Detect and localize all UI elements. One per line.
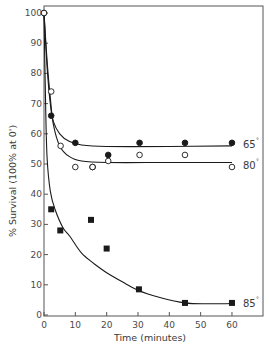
marker-open-circle	[90, 164, 96, 170]
marker-filled-circle	[105, 152, 111, 158]
marker-filled-square	[182, 300, 188, 306]
marker-filled-circle	[182, 140, 188, 146]
y-tick-label: 30	[31, 219, 43, 229]
plot-border	[44, 6, 263, 316]
marker-filled-square	[48, 206, 54, 212]
fit-curves	[44, 13, 232, 304]
y-tick-label: 70	[31, 99, 43, 109]
degree-sign: °	[256, 157, 259, 164]
marker-filled-circle	[229, 140, 235, 146]
plot-frame	[44, 6, 263, 316]
x-tick-label: 40	[164, 320, 176, 330]
marker-filled-square	[57, 227, 63, 233]
x-tick-label: 10	[70, 320, 82, 330]
marker-filled-square	[104, 246, 110, 252]
y-tick-label: 90	[31, 38, 43, 48]
series-label-85: 85	[243, 298, 256, 309]
marker-filled-square	[88, 217, 94, 223]
series-label-65: 65	[243, 139, 256, 150]
y-tick-label: 10	[31, 280, 43, 290]
x-tick-label: 20	[101, 320, 113, 330]
marker-open-circle	[137, 152, 143, 158]
x-axis-title: Time (minutes)	[113, 332, 186, 343]
degree-sign: °	[256, 295, 259, 302]
y-tick-label: 80	[31, 68, 43, 78]
y-tick-label: 20	[31, 250, 43, 260]
y-axis-title: % Survival (100% at 0')	[7, 125, 18, 237]
marker-filled-circle	[137, 140, 143, 146]
x-tick-label: 60	[226, 320, 238, 330]
marker-filled-square	[136, 286, 142, 292]
x-axis-ticks: 0102030405060	[41, 312, 238, 330]
x-tick-label: 0	[41, 320, 47, 330]
series-label-80: 80	[243, 160, 256, 171]
fit-curve-65	[44, 13, 232, 147]
marker-open-circle	[73, 164, 79, 170]
degree-sign: °	[256, 136, 259, 143]
y-tick-label: 60	[31, 129, 43, 139]
marker-open-circle	[229, 164, 235, 170]
y-tick-label: 50	[31, 159, 43, 169]
marker-open-circle	[182, 152, 188, 158]
marker-filled-circle	[48, 113, 54, 119]
y-tick-label: 100	[25, 8, 42, 18]
marker-open-circle	[41, 10, 47, 16]
marker-filled-square	[229, 300, 235, 306]
data-points	[41, 10, 235, 306]
marker-open-circle	[48, 89, 54, 95]
x-tick-label: 30	[132, 320, 144, 330]
marker-open-circle	[58, 143, 64, 149]
x-tick-label: 50	[195, 320, 207, 330]
series-labels: 65°80°85°	[243, 136, 259, 309]
marker-open-circle	[105, 158, 111, 164]
y-tick-label: 0	[36, 310, 42, 320]
marker-filled-circle	[73, 140, 79, 146]
y-tick-label: 40	[31, 189, 43, 199]
survival-chart: 0102030405060708090100 0102030405060 65°…	[0, 0, 269, 351]
